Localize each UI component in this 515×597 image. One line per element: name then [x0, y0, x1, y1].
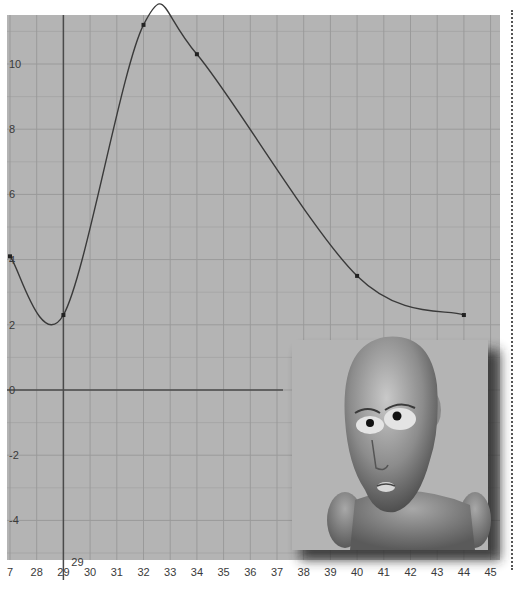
x-tick-label: 37 — [271, 566, 283, 578]
keyframe-point[interactable] — [142, 23, 146, 27]
graph-editor[interactable]: 7282930313233343536373839404142434445291… — [0, 0, 515, 597]
current-frame-label: 29 — [71, 556, 83, 568]
x-tick-label: 31 — [111, 566, 123, 578]
x-tick-label: 45 — [484, 566, 496, 578]
x-tick-label: 36 — [244, 566, 256, 578]
character-preview — [292, 337, 500, 560]
x-tick-label: 28 — [31, 566, 43, 578]
x-tick-label: 7 — [7, 566, 13, 578]
x-tick-label: 43 — [431, 566, 443, 578]
y-tick-label: 10 — [9, 58, 21, 70]
x-tick-label: 30 — [84, 566, 96, 578]
keyframe-point[interactable] — [61, 313, 65, 317]
x-tick-label: 42 — [404, 566, 416, 578]
x-tick-label: 32 — [137, 566, 149, 578]
x-tick-label: 38 — [298, 566, 310, 578]
keyframe-point[interactable] — [8, 254, 12, 258]
y-tick-label: 6 — [9, 188, 15, 200]
x-tick-label: 34 — [191, 566, 203, 578]
x-tick-label: 41 — [378, 566, 390, 578]
x-tick-label: 40 — [351, 566, 363, 578]
x-tick-label: 33 — [164, 566, 176, 578]
keyframe-point[interactable] — [355, 274, 359, 278]
x-tick-label: 39 — [324, 566, 336, 578]
y-tick-label: 2 — [9, 319, 15, 331]
x-tick-label: 29 — [57, 566, 69, 578]
keyframe-point[interactable] — [462, 313, 466, 317]
y-tick-label: -2 — [9, 449, 19, 461]
y-tick-label: -4 — [9, 514, 19, 526]
keyframe-point[interactable] — [195, 52, 199, 56]
y-tick-label: 8 — [9, 123, 15, 135]
y-tick-label: 0 — [9, 384, 15, 396]
x-tick-label: 35 — [217, 566, 229, 578]
x-tick-label: 44 — [458, 566, 470, 578]
timeline-divider — [511, 10, 513, 570]
